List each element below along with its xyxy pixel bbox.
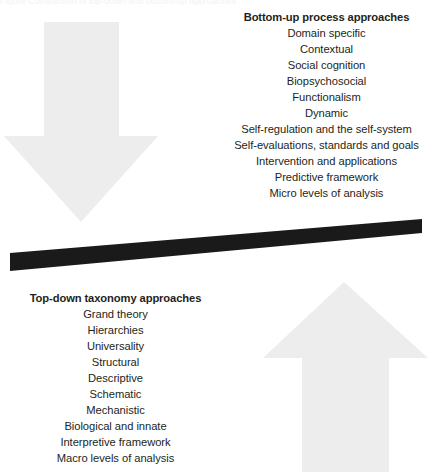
- down-arrow-icon: [0, 22, 162, 224]
- list-item: Hierarchies: [3, 322, 228, 338]
- list-item: Self-evaluations, standards and goals: [222, 137, 431, 153]
- list-item: Micro levels of analysis: [222, 185, 431, 201]
- top-down-list: Top-down taxonomy approaches Grand theor…: [3, 290, 228, 466]
- top-caption-fragment: Figure Comparison of top-down and bottom…: [0, 0, 431, 5]
- list-item: Biological and innate: [3, 418, 228, 434]
- list-item: Schematic: [3, 386, 228, 402]
- balance-beam: [0, 210, 431, 285]
- list-item: Self-regulation and the self-system: [222, 121, 431, 137]
- list-item: Intervention and applications: [222, 153, 431, 169]
- up-arrow-icon: [258, 280, 431, 472]
- list-item: Domain specific: [222, 25, 431, 41]
- list-item: Descriptive: [3, 370, 228, 386]
- list-item: Biopsychosocial: [222, 73, 431, 89]
- list-item: Grand theory: [3, 306, 228, 322]
- list-item: Predictive framework: [222, 169, 431, 185]
- bottom-up-list: Bottom-up process approaches Domain spec…: [222, 9, 431, 201]
- list-item: Contextual: [222, 41, 431, 57]
- list-item: Structural: [3, 354, 228, 370]
- figure-canvas: Figure Comparison of top-down and bottom…: [0, 0, 431, 472]
- list-item: Interpretive framework: [3, 434, 228, 450]
- top-down-heading: Top-down taxonomy approaches: [3, 290, 228, 306]
- list-item: Universality: [3, 338, 228, 354]
- bottom-up-heading: Bottom-up process approaches: [222, 9, 431, 25]
- list-item: Dynamic: [222, 105, 431, 121]
- list-item: Mechanistic: [3, 402, 228, 418]
- list-item: Social cognition: [222, 57, 431, 73]
- list-item: Functionalism: [222, 89, 431, 105]
- list-item: Macro levels of analysis: [3, 450, 228, 466]
